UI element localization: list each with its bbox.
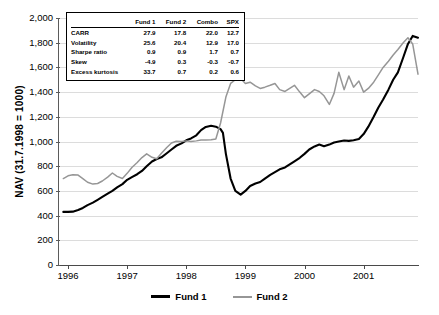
chart-legend: Fund 1 Fund 2 [0, 292, 439, 302]
stats-cell-value: 20.4 [156, 37, 187, 47]
stats-cell-value: 27.9 [125, 27, 156, 37]
y-tick-label: 200 [37, 236, 53, 246]
stats-cell-value: 17.8 [156, 27, 187, 37]
stats-table-head: Fund 1 Fund 2 Combo SPX [71, 17, 239, 27]
stats-row-label: Volatility [71, 37, 125, 47]
y-tick-mark [56, 265, 60, 266]
stats-header-row: Fund 1 Fund 2 Combo SPX [71, 17, 239, 27]
stats-table-row: Excess kurtosis33.70.70.20.6 [71, 66, 239, 76]
y-tick-label: 1,800 [29, 38, 53, 48]
y-tick-label: 0 [48, 260, 53, 270]
stats-row-label: Skew [71, 57, 125, 67]
stats-table-body: CARR27.917.822.012.7Volatility25.620.412… [71, 27, 239, 76]
x-tick-mark [305, 265, 306, 269]
stats-cell-value: 0.7 [156, 66, 187, 76]
legend-item-fund-1[interactable]: Fund 1 [151, 292, 206, 302]
y-tick-label: 1,600 [29, 63, 53, 73]
stats-col-header: Combo [186, 17, 218, 27]
stats-table-row: Volatility25.620.412.917.0 [71, 37, 239, 47]
x-tick-label: 2000 [294, 271, 315, 281]
legend-item-fund-2[interactable]: Fund 2 [233, 292, 288, 302]
x-tick-label: 2001 [353, 271, 374, 281]
stats-cell-value: 33.7 [125, 66, 156, 76]
statistics-table: Fund 1 Fund 2 Combo SPX CARR27.917.822.0… [66, 12, 245, 81]
stats-cell-value: -0.7 [218, 57, 239, 67]
stats-row-label: Excess kurtosis [71, 66, 125, 76]
stats-cell-value: -0.3 [186, 57, 218, 67]
stats-cell-value: 17.0 [218, 37, 239, 47]
stats-cell-value: 0.7 [218, 47, 239, 57]
stats-col-header: Fund 2 [156, 17, 187, 27]
x-tick-label: 1996 [57, 271, 78, 281]
x-tick-label: 1997 [117, 271, 138, 281]
legend-swatch-fund-2 [233, 296, 252, 298]
stats-table-row: Skew-4.90.3-0.3-0.7 [71, 57, 239, 67]
stats-row-label: Sharpe ratio [71, 47, 125, 57]
legend-label-fund-2: Fund 2 [257, 292, 288, 302]
stats-cell-value: 25.6 [125, 37, 156, 47]
y-tick-label: 800 [37, 161, 53, 171]
x-tick-mark [245, 265, 246, 269]
stats-cell-value: -4.9 [125, 57, 156, 67]
x-axis-line [58, 265, 419, 266]
stats-cell-value: 22.0 [186, 27, 218, 37]
stats-corner-header [71, 17, 125, 27]
stats-cell-value: 0.9 [125, 47, 156, 57]
x-tick-mark [127, 265, 128, 269]
stats-col-header: Fund 1 [125, 17, 156, 27]
legend-swatch-fund-1 [151, 295, 170, 298]
stats-col-header: SPX [218, 17, 239, 27]
x-tick-label: 1998 [176, 271, 197, 281]
y-tick-label: 400 [37, 211, 53, 221]
y-tick-label: 1,000 [29, 137, 53, 147]
stats-table-row: CARR27.917.822.012.7 [71, 27, 239, 37]
chart-container: NAV (31.7.1998 = 1000) 02004006008001,00… [0, 0, 439, 315]
stats-table-row: Sharpe ratio0.90.91.70.7 [71, 47, 239, 57]
stats-table-grid: Fund 1 Fund 2 Combo SPX CARR27.917.822.0… [71, 17, 239, 76]
x-tick-mark [68, 265, 69, 269]
stats-cell-value: 0.3 [156, 57, 187, 67]
stats-row-label: CARR [71, 27, 125, 37]
y-tick-label: 600 [37, 186, 53, 196]
stats-cell-value: 0.9 [156, 47, 187, 57]
y-tick-label: 1,400 [29, 87, 53, 97]
legend-label-fund-1: Fund 1 [175, 292, 206, 302]
x-tick-label: 1999 [235, 271, 256, 281]
y-axis-title: NAV (31.7.1998 = 1000) [14, 37, 25, 247]
stats-cell-value: 0.6 [218, 66, 239, 76]
y-tick-label: 1,200 [29, 112, 53, 122]
stats-cell-value: 0.2 [186, 66, 218, 76]
stats-cell-value: 12.9 [186, 37, 218, 47]
x-tick-mark [186, 265, 187, 269]
x-tick-mark [364, 265, 365, 269]
stats-cell-value: 12.7 [218, 27, 239, 37]
stats-cell-value: 1.7 [186, 47, 218, 57]
y-tick-label: 2,000 [29, 13, 53, 23]
